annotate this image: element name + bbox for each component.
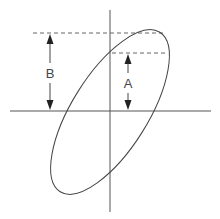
b-arrow-down-icon [47,100,54,110]
measurement-b: B [46,34,55,110]
ellipse-diagram: B A [0,0,220,219]
label-a: A [124,76,133,91]
b-arrow-up-icon [47,34,54,44]
measurement-a: A [124,54,133,110]
a-arrow-down-icon [125,100,132,110]
a-arrow-up-icon [125,54,132,64]
label-b: B [46,66,55,81]
